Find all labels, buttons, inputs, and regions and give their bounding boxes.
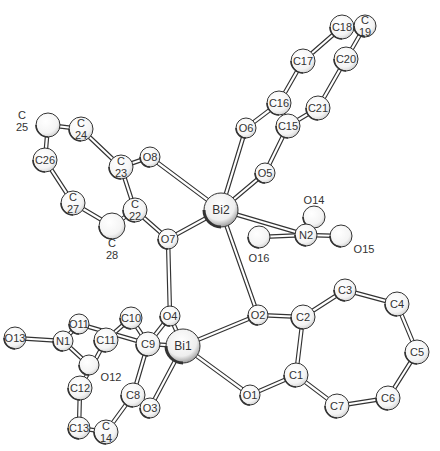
atom-c7: C7: [325, 394, 349, 418]
atom-o7: O7: [158, 229, 178, 249]
atom-label: C25: [16, 109, 28, 133]
atom-o13: O13: [4, 327, 26, 349]
atom-o11: O11: [69, 314, 89, 334]
atom-label: O15: [354, 243, 375, 255]
atom-o16: O16: [248, 226, 270, 264]
atom-label: C5: [410, 346, 424, 358]
atom-c1: C1: [284, 363, 308, 387]
atom-c16: C16: [267, 91, 291, 115]
atom-o2: O2: [248, 305, 268, 325]
atom-c3: C3: [334, 279, 356, 301]
atom-label: O3: [143, 402, 158, 414]
atom-label: C12: [70, 382, 90, 394]
atom-o14: O14: [303, 194, 325, 228]
bond-o7-o4: [168, 239, 170, 316]
atom-label: C18: [332, 21, 352, 33]
atom-label: C1: [289, 369, 303, 381]
atom-label: O16: [249, 252, 270, 264]
atom-o8: O8: [140, 147, 160, 167]
atom-bi1: Bi1: [166, 329, 200, 363]
atom-label: Bi1: [174, 339, 192, 353]
atom-bi2: Bi2: [204, 193, 238, 227]
atom-c24: C24: [69, 117, 93, 141]
atom-label: C15: [278, 120, 298, 132]
atom-label: O11: [69, 318, 89, 330]
atom-label: C2: [296, 311, 310, 323]
atom-c12: C12: [68, 376, 92, 400]
atom-label: C7: [330, 400, 344, 412]
bonds-layer: [15, 26, 417, 432]
atom-label: C4: [390, 298, 404, 310]
atom-label: C10: [121, 312, 141, 324]
atom-c18: C18: [330, 15, 354, 39]
atom-o4: O4: [160, 306, 180, 326]
atom-o15: O15: [330, 225, 374, 255]
atom-label: O8: [143, 151, 158, 163]
atom-label: N2: [299, 229, 313, 241]
molecular-structure-diagram: C18C19C17C20C16C21C15O6O5Bi2C25C24C26C23…: [0, 0, 440, 451]
atom-c11: C11: [94, 328, 118, 352]
atom-n2: N2: [295, 224, 317, 246]
atom-label: N1: [56, 335, 70, 347]
atom-label: C21: [308, 102, 328, 114]
atom-label: O7: [161, 233, 176, 245]
atom-c26: C26: [33, 148, 57, 172]
atom-label: C6: [381, 392, 395, 404]
atom-c13: C13: [68, 417, 90, 439]
atom-label: C26: [35, 154, 55, 166]
atom-c6: C6: [376, 386, 400, 410]
atom-o6: O6: [236, 118, 256, 138]
atom-c10: C10: [120, 307, 142, 329]
atom-c27: C27: [61, 191, 85, 215]
atom-c19: C19: [354, 14, 376, 38]
atom-label: O1: [243, 389, 258, 401]
atom-label: O2: [251, 309, 266, 321]
atom-label: C16: [269, 97, 289, 109]
atom-c22: C22: [123, 198, 147, 222]
atom-label: O6: [239, 122, 254, 134]
atom-c4: C4: [385, 292, 409, 316]
atom-label: C17: [293, 55, 313, 67]
atom-label: O13: [5, 332, 26, 344]
atom-o1: O1: [240, 385, 260, 405]
atom-label: O5: [258, 167, 273, 179]
atom-label: C3: [338, 284, 352, 296]
atom-label: C8: [126, 389, 140, 401]
atom-c25: C25: [16, 109, 60, 137]
atom-c15: C15: [276, 114, 300, 138]
atom-o5: O5: [255, 163, 275, 183]
atom-label: C13: [69, 422, 89, 434]
atom-label: C11: [96, 334, 115, 346]
atom-label: C20: [336, 53, 356, 65]
atom-c2: C2: [291, 305, 315, 329]
atom-label: C28: [106, 237, 118, 261]
atom-label: Bi2: [212, 203, 230, 217]
atom-label: O4: [163, 310, 178, 322]
atoms-layer: C18C19C17C20C16C21C15O6O5Bi2C25C24C26C23…: [4, 14, 429, 444]
atom-c9: C9: [136, 332, 160, 356]
atom-label: C9: [141, 338, 155, 350]
atom-c14: C14: [94, 420, 118, 444]
atom-n1: N1: [53, 331, 73, 351]
atom-c21: C21: [306, 96, 330, 120]
atom-c23: C23: [109, 155, 133, 179]
atom-o3: O3: [140, 398, 160, 418]
atom-label: O14: [304, 194, 325, 206]
atom-c17: C17: [291, 49, 315, 73]
atom-c5: C5: [405, 340, 429, 364]
atom-c28: C28: [99, 213, 125, 261]
atom-label: O12: [101, 371, 122, 383]
atom-c20: C20: [334, 47, 358, 71]
